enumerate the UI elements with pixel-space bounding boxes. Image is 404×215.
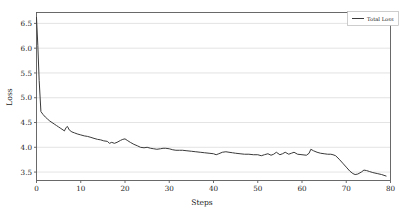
x-tick-label: 60 — [297, 184, 307, 193]
y-tick-label: 6.0 — [21, 44, 33, 53]
legend-label-total-loss: Total Loss — [367, 16, 394, 22]
x-tick-label: 30 — [165, 184, 175, 193]
y-tick-label: 5.5 — [21, 69, 33, 78]
y-tick-label: 5.0 — [21, 93, 33, 102]
y-tick-label: 6.5 — [21, 19, 33, 28]
figure-background — [0, 0, 404, 215]
loss-line-chart: 01020304050607080 3.54.04.55.05.56.06.5 … — [0, 0, 404, 215]
chart-figure: 01020304050607080 3.54.04.55.05.56.06.5 … — [0, 0, 404, 215]
x-tick-label: 70 — [342, 184, 352, 193]
y-tick-label: 4.0 — [21, 143, 33, 152]
x-tick-label: 80 — [386, 184, 396, 193]
y-tick-label: 4.5 — [21, 118, 33, 127]
x-axis-title: Steps — [191, 198, 213, 207]
x-tick-label: 40 — [209, 184, 219, 193]
x-tick-label: 10 — [76, 184, 86, 193]
chart-legend: Total Loss — [348, 12, 399, 26]
x-tick-label: 0 — [34, 184, 39, 193]
x-tick-label: 20 — [120, 184, 130, 193]
y-axis-title: Loss — [5, 88, 14, 106]
x-tick-label: 50 — [253, 184, 263, 193]
y-tick-label: 3.5 — [21, 168, 33, 177]
